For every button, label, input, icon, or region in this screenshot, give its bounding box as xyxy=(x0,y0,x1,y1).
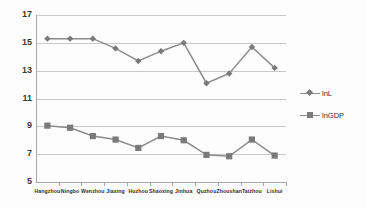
legend-marker-square-icon xyxy=(300,110,320,120)
legend-item-lngdp: lnGDP xyxy=(300,104,366,126)
y-axis-tick-label: 13 xyxy=(0,65,32,75)
x-axis-tick-label: Shaoxing xyxy=(149,188,173,194)
x-axis-tick-label: Lishui xyxy=(267,188,283,194)
x-axis-tick xyxy=(172,182,173,186)
legend-label-lnl: lnL xyxy=(322,89,332,98)
x-axis-tick xyxy=(241,182,242,186)
x-axis-tick-label: Jiaxing xyxy=(106,188,125,194)
x-axis-line xyxy=(36,182,286,183)
y-axis-tick-label: 5 xyxy=(0,176,32,186)
gridline xyxy=(36,154,286,155)
x-axis-tick xyxy=(286,182,287,186)
x-axis-tick xyxy=(104,182,105,186)
x-axis-tick xyxy=(195,182,196,186)
x-axis-tick-label: Huzhou xyxy=(128,188,148,194)
plot-area xyxy=(36,15,286,182)
legend-item-lnl: lnL xyxy=(300,82,366,104)
x-axis-tick-label: Wenzhou xyxy=(81,188,105,194)
x-axis-tick xyxy=(218,182,219,186)
gridline xyxy=(36,71,286,72)
x-axis-tick-label: Quzhou xyxy=(197,188,217,194)
gridline xyxy=(36,15,286,16)
x-axis-tick xyxy=(150,182,151,186)
y-axis-tick-label: 17 xyxy=(0,9,32,19)
y-axis-tick-label: 11 xyxy=(0,93,32,103)
legend-marker-diamond-icon xyxy=(300,88,320,98)
line-chart: 17151311975 HangzhouNingboWenzhouJiaxing… xyxy=(0,0,366,209)
x-axis-tick-label: Zhoushan xyxy=(216,188,242,194)
x-axis-tick xyxy=(59,182,60,186)
x-axis-tick-label: Taizhou xyxy=(242,188,262,194)
x-axis-tick-label: Ningbo xyxy=(61,188,79,194)
x-axis-tick-label: Jinhua xyxy=(175,188,192,194)
x-axis-tick xyxy=(81,182,82,186)
gridline xyxy=(36,99,286,100)
x-axis-tick xyxy=(263,182,264,186)
legend-label-lngdp: lnGDP xyxy=(322,111,344,120)
y-axis-tick-label: 9 xyxy=(0,120,32,130)
y-axis-tick-label: 15 xyxy=(0,37,32,47)
y-axis-tick-label: 7 xyxy=(0,148,32,158)
x-axis-tick xyxy=(127,182,128,186)
gridline xyxy=(36,43,286,44)
legend: lnL lnGDP xyxy=(300,82,366,126)
y-axis-line xyxy=(36,15,37,183)
x-axis-tick-label: Hangzhou xyxy=(34,188,60,194)
gridline xyxy=(36,126,286,127)
